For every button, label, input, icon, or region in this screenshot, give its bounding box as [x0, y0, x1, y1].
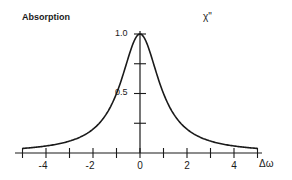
y-axis	[134, 31, 146, 153]
svg-text:2: 2	[184, 160, 190, 171]
lorentzian-plot: -4-2024	[0, 0, 292, 180]
svg-text:-2: -2	[86, 160, 95, 171]
x-axis	[15, 148, 262, 158]
x-tick-labels: -4-2024	[39, 160, 238, 171]
svg-text:0: 0	[137, 160, 143, 171]
svg-text:-4: -4	[39, 160, 48, 171]
svg-text:4: 4	[231, 160, 237, 171]
